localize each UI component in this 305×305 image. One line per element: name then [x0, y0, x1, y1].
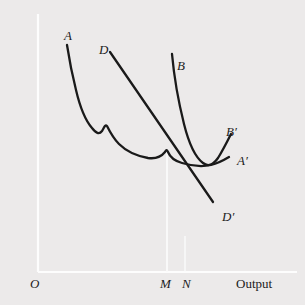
- cost-curves-figure: A D B B′ A′ D′ O M N Output: [0, 0, 305, 305]
- label-b: B: [177, 59, 185, 72]
- label-b-prime: B′: [226, 125, 237, 138]
- tick-label-m: M: [160, 277, 171, 290]
- label-d-prime: D′: [222, 210, 234, 223]
- curve-d-path: [110, 52, 213, 202]
- label-d: D: [99, 43, 108, 56]
- axis-group: [38, 14, 297, 272]
- label-a: A: [64, 29, 72, 42]
- tick-label-n: N: [182, 277, 191, 290]
- x-axis-label: Output: [236, 277, 272, 290]
- label-a-prime: A′: [237, 154, 248, 167]
- diagram-canvas: [0, 0, 305, 305]
- label-origin: O: [30, 277, 39, 290]
